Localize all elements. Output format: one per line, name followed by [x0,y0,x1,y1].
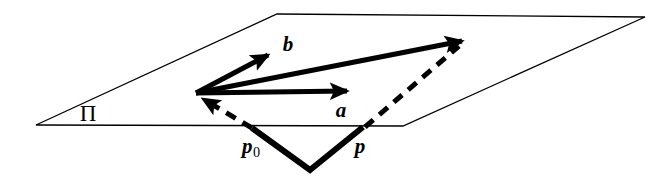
figure-canvas [0,0,655,178]
dashed-vector-p0 [203,99,252,128]
point-p0-base: p [242,134,253,158]
vector-b-label: b [283,34,294,55]
vector-a-arrow [196,91,347,93]
thick-v-connector [252,127,363,170]
point-p0-subscript: 0 [253,144,260,160]
vector-plane-figure: Π b a p0 p [0,0,655,178]
point-p0-label: p0 [242,136,260,159]
point-p-label: p [355,136,366,157]
plane-label: Π [80,102,97,125]
resultant-vector-arrow [196,41,462,93]
vector-a-label: a [336,100,347,121]
